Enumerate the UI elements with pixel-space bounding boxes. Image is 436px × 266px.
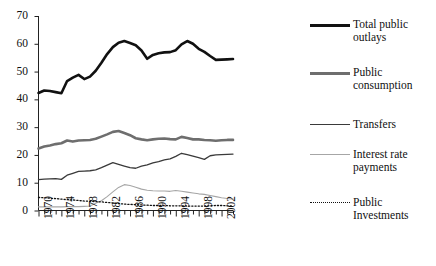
x-tick-label: 1982 [111, 196, 122, 219]
series-line [39, 41, 234, 93]
x-tick-label: 1970 [43, 196, 54, 219]
legend-label: Public Investments [353, 196, 409, 221]
legend-label: Interest rate payments [353, 148, 408, 173]
legend-item[interactable]: Transfers [310, 118, 396, 131]
legend-label: Transfers [353, 118, 396, 131]
series-line [39, 153, 234, 179]
y-tick-label: 40 [4, 93, 28, 104]
legend-label: Total public outlays [353, 18, 408, 43]
legend-item[interactable]: Interest rate payments [310, 148, 408, 173]
x-tick-label: 1986 [134, 196, 145, 219]
legend-swatch-icon [310, 66, 350, 78]
data-series-group [39, 41, 234, 207]
y-axis-ticks [35, 17, 39, 212]
x-tick-label: 1994 [180, 196, 191, 219]
legend-item[interactable]: Public Investments [310, 196, 409, 221]
y-tick-label: 50 [4, 66, 28, 77]
legend-item[interactable]: Public consumption [310, 66, 412, 91]
x-tick-label: 1998 [203, 196, 214, 219]
legend-swatch-icon [310, 18, 350, 30]
line-chart-figure: 010203040506070 197019741978198219861990… [0, 0, 436, 266]
y-tick-label: 30 [4, 121, 28, 132]
legend-swatch-icon [310, 196, 350, 208]
x-tick-label: 1978 [88, 196, 99, 219]
y-tick-label: 10 [4, 177, 28, 188]
legend-swatch-icon [310, 148, 350, 160]
y-tick-label: 70 [4, 10, 28, 21]
y-tick-label: 20 [4, 149, 28, 160]
y-tick-label: 0 [4, 205, 28, 216]
y-tick-label: 60 [4, 38, 28, 49]
x-tick-label: 1990 [157, 196, 168, 219]
series-line [39, 131, 234, 149]
x-tick-label: 2002 [226, 196, 237, 219]
x-tick-label: 1974 [65, 196, 76, 219]
legend-label: Public consumption [353, 66, 412, 91]
legend-item[interactable]: Total public outlays [310, 18, 408, 43]
legend-swatch-icon [310, 118, 350, 130]
